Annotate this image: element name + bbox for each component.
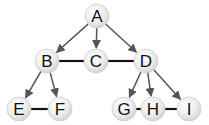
node-label: A (91, 7, 103, 26)
edge-d-i (153, 69, 180, 99)
node-label: G (117, 100, 130, 119)
graph-diagram: ABCDEFGHI (0, 0, 209, 125)
node-b: B (35, 49, 59, 73)
node-e: E (7, 97, 31, 121)
node-h: H (141, 97, 165, 121)
edge-d-h (148, 72, 152, 96)
node-label: E (13, 100, 24, 119)
edge-b-f (50, 72, 57, 97)
edge-d-g (129, 71, 141, 97)
node-f: F (48, 97, 72, 121)
node-label: C (90, 52, 102, 71)
node-label: B (41, 52, 52, 71)
node-label: D (140, 52, 152, 71)
nodes-layer: ABCDEFGHI (7, 4, 201, 121)
node-c: C (84, 49, 108, 73)
node-a: A (85, 4, 109, 28)
node-label: I (187, 100, 192, 119)
graph-svg: ABCDEFGHI (0, 0, 209, 125)
node-label: F (55, 100, 65, 119)
edge-a-d (105, 23, 136, 52)
node-d: D (134, 49, 158, 73)
node-label: H (147, 100, 159, 119)
edge-a-b (57, 23, 89, 52)
node-i: I (177, 97, 201, 121)
edge-b-e (26, 71, 42, 98)
node-g: G (112, 97, 136, 121)
